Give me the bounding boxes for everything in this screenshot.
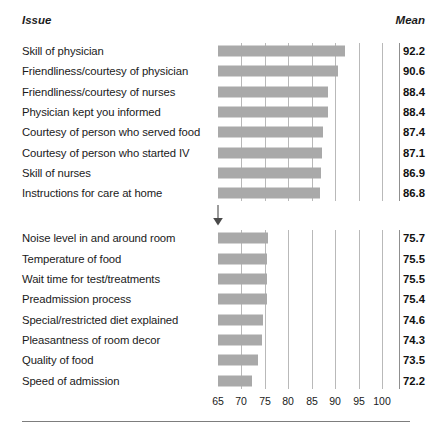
- row-mean-value: 74.3: [403, 334, 425, 346]
- bar: [218, 127, 323, 138]
- bar-chart-figure: Issue Mean Skill of physician92.2Friendl…: [0, 0, 432, 433]
- row-label: Speed of admission: [22, 375, 119, 387]
- row-label: Wait time for test/treatments: [22, 273, 160, 285]
- chart-row: Friendliness/courtesy of physician90.6: [0, 61, 432, 81]
- row-label: Friendliness/courtesy of nurses: [22, 86, 175, 98]
- column-header-issue: Issue: [22, 14, 51, 26]
- x-tick-label-80: 80: [282, 395, 294, 407]
- row-label: Preadmission process: [22, 293, 131, 305]
- bar: [218, 233, 268, 244]
- row-mean-value: 92.2: [403, 45, 425, 57]
- bar: [218, 188, 320, 199]
- row-label: Noise level in and around room: [22, 232, 175, 244]
- row-mean-value: 88.4: [403, 106, 425, 118]
- bar: [218, 106, 328, 117]
- chart-row: Wait time for test/treatments75.5: [0, 269, 432, 289]
- x-tick-label-100: 100: [373, 395, 391, 407]
- row-mean-value: 75.5: [403, 253, 425, 265]
- bar: [218, 314, 263, 325]
- row-mean-value: 73.5: [403, 354, 425, 366]
- bar: [218, 167, 321, 178]
- row-mean-value: 74.6: [403, 314, 425, 326]
- row-label: Friendliness/courtesy of physician: [22, 65, 188, 77]
- row-label: Physician kept you informed: [22, 106, 161, 118]
- row-mean-value: 86.9: [403, 167, 425, 179]
- row-label: Skill of nurses: [22, 167, 91, 179]
- bar: [218, 274, 267, 285]
- row-label: Quality of food: [22, 354, 93, 366]
- row-label: Courtesy of person who started IV: [22, 147, 190, 159]
- chart-row: Courtesy of person who started IV87.1: [0, 143, 432, 163]
- row-mean-value: 87.1: [403, 147, 425, 159]
- x-tick-label-65: 65: [212, 395, 224, 407]
- bar: [218, 46, 345, 57]
- chart-row: Preadmission process75.4: [0, 289, 432, 309]
- row-mean-value: 75.7: [403, 232, 425, 244]
- row-mean-value: 75.4: [403, 293, 425, 305]
- x-tick-label-85: 85: [306, 395, 318, 407]
- chart-row: Temperature of food75.5: [0, 249, 432, 269]
- chart-row: Quality of food73.5: [0, 350, 432, 370]
- bar: [218, 253, 267, 264]
- bar: [218, 147, 322, 158]
- row-label: Courtesy of person who served food: [22, 126, 200, 138]
- bar: [218, 294, 267, 305]
- chart-row: Noise level in and around room75.7: [0, 228, 432, 248]
- row-mean-value: 88.4: [403, 86, 425, 98]
- chart-row: Pleasantness of room decor74.3: [0, 330, 432, 350]
- chart-row: Skill of nurses86.9: [0, 163, 432, 183]
- row-label: Special/restricted diet explained: [22, 314, 178, 326]
- column-header-mean: Mean: [396, 14, 425, 26]
- bar: [218, 334, 262, 345]
- chart-row: Courtesy of person who served food87.4: [0, 122, 432, 142]
- chart-row: Instructions for care at home86.8: [0, 183, 432, 203]
- row-mean-value: 86.8: [403, 187, 425, 199]
- row-mean-value: 75.5: [403, 273, 425, 285]
- group-break-down-arrow: [211, 205, 225, 226]
- bar: [218, 86, 328, 97]
- chart-row: Friendliness/courtesy of nurses88.4: [0, 82, 432, 102]
- x-tick-label-95: 95: [353, 395, 365, 407]
- row-label: Temperature of food: [22, 253, 121, 265]
- row-mean-value: 90.6: [403, 65, 425, 77]
- row-label: Instructions for care at home: [22, 187, 162, 199]
- row-label: Skill of physician: [22, 45, 104, 57]
- x-tick-label-90: 90: [329, 395, 341, 407]
- bar: [218, 355, 258, 366]
- x-axis: 65707580859095100: [0, 395, 432, 411]
- x-tick-label-75: 75: [259, 395, 271, 407]
- row-mean-value: 87.4: [403, 126, 425, 138]
- chart-row: Physician kept you informed88.4: [0, 102, 432, 122]
- chart-row: Speed of admission72.2: [0, 371, 432, 391]
- x-tick-label-70: 70: [235, 395, 247, 407]
- bottom-divider: [22, 421, 410, 422]
- chart-row: Special/restricted diet explained74.6: [0, 310, 432, 330]
- bar: [218, 66, 338, 77]
- chart-row: Skill of physician92.2: [0, 41, 432, 61]
- row-mean-value: 72.2: [403, 375, 425, 387]
- bar: [218, 375, 252, 386]
- row-label: Pleasantness of room decor: [22, 334, 160, 346]
